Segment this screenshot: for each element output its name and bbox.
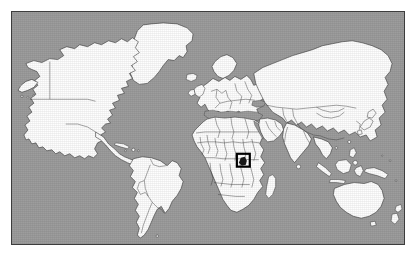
world-map-svg [12, 12, 404, 244]
landmass-japan-kyushu [357, 130, 362, 135]
islet-taiwan [348, 140, 351, 143]
islet-hainan [335, 147, 337, 149]
islet-puerto-rico [137, 150, 139, 152]
sea-black [252, 100, 266, 107]
islet-jamaica [125, 150, 127, 152]
islet-hispaniola [132, 148, 135, 151]
islet-pacific-2 [395, 180, 397, 182]
islet-falklands [156, 235, 158, 237]
islet-pacific-3 [381, 155, 382, 156]
islet-sri-lanka [296, 165, 300, 169]
world-map-frame [11, 11, 405, 245]
islet-aleutian-2 [27, 96, 29, 98]
islet-aleutian-3 [33, 94, 35, 96]
islet-mindanao [353, 160, 358, 165]
screenshot-root [0, 0, 417, 259]
landmass-tasmania [370, 221, 376, 226]
islet-pacific-1 [389, 160, 391, 162]
islet-aleutian-1 [21, 95, 23, 97]
